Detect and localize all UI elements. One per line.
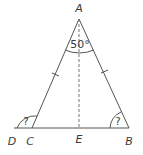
label-E: E (76, 133, 83, 146)
angle-value-B: ? (115, 116, 120, 127)
apex-angle-value: 50° (70, 38, 90, 51)
triangle-diagram: A D C E B 50° ? ? (0, 0, 143, 155)
label-C: C (26, 135, 34, 148)
side-AC (32, 19, 79, 128)
label-A: A (74, 2, 83, 15)
exterior-angle-value-C: ? (23, 116, 28, 127)
label-B: B (125, 135, 133, 148)
tick-mark-AB (101, 70, 108, 73)
label-D: D (8, 135, 16, 148)
side-AB (79, 19, 129, 128)
